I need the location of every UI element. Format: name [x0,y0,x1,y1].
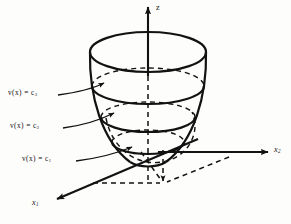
axis-label-z-text: z [156,3,160,12]
axis-label-x1-subscript: 1 [36,201,39,207]
paraboloid-right-wall [166,52,206,162]
axis-label-x1: x1 [32,198,39,207]
axis-label-x2-subscript: 2 [278,148,281,154]
axis-label-x2: x2 [274,145,281,154]
leader-line-c1 [76,147,132,161]
contour-label-c3: v(x) = c3 [8,88,37,97]
contour-label-c1: v(x) = c1 [22,154,51,163]
contour-label-c2: v(x) = c2 [10,121,39,130]
contour-label-c1-subscript: 1 [49,158,51,163]
contour-label-c3-subscript: 3 [35,92,37,97]
contour-label-c2-subscript: 2 [37,125,39,130]
paraboloid-left-wall [90,52,130,162]
contour-label-c3-text: v(x) = c [8,88,35,97]
axis-x1-line [57,139,198,199]
axis-x1 [57,139,198,199]
lyapunov-paraboloid-figure [0,0,291,224]
axis-label-z: z [156,3,160,12]
contour-label-c1-text: v(x) = c [22,154,49,163]
projection-diagonal-dashed [167,157,229,182]
contour-label-c2-text: v(x) = c [10,121,37,130]
